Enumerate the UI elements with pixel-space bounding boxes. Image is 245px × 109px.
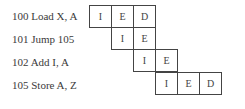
instruction-label: 101 Jump 105	[12, 28, 74, 51]
instruction-label: 100 Load X, A	[12, 5, 77, 28]
stage-cell: E	[155, 49, 178, 72]
stage-cell: E	[111, 5, 134, 28]
instruction-label: 102 Add I, A	[12, 51, 69, 74]
stage-cell: E	[133, 27, 156, 50]
stage-cell: I	[111, 27, 134, 50]
stage-cell: I	[155, 72, 178, 95]
stage-cell: E	[177, 72, 200, 95]
stage-cell: I	[133, 49, 156, 72]
stage-cell: D	[199, 72, 222, 95]
stage-cell: I	[89, 5, 112, 28]
instruction-label: 105 Store A, Z	[12, 74, 77, 97]
stage-cell: D	[133, 5, 156, 28]
